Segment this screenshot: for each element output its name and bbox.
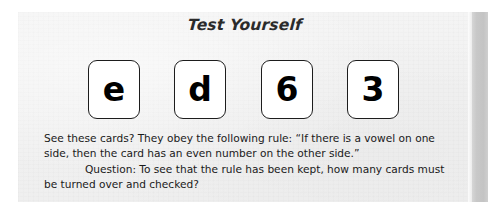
card-glyph: 6 [276,73,299,106]
page-title: Test Yourself [17,16,472,34]
page-gutter-band [472,12,488,202]
card-d[interactable]: d [174,60,226,119]
paragraph-rule: See these cards? They obey the following… [44,131,449,162]
card-row: e d 6 3 [88,60,400,121]
card-3[interactable]: 3 [347,60,399,119]
card-glyph: 3 [362,73,385,106]
card-glyph: d [188,73,212,106]
paragraph-question: Question: To see that the rule has been … [44,162,449,193]
test-yourself-panel: Test Yourself e d 6 3 See these cards? T… [0,0,488,202]
card-6[interactable]: 6 [261,60,313,119]
card-e[interactable]: e [88,60,140,119]
card-glyph: e [103,73,125,106]
body-text: See these cards? They obey the following… [44,131,449,193]
